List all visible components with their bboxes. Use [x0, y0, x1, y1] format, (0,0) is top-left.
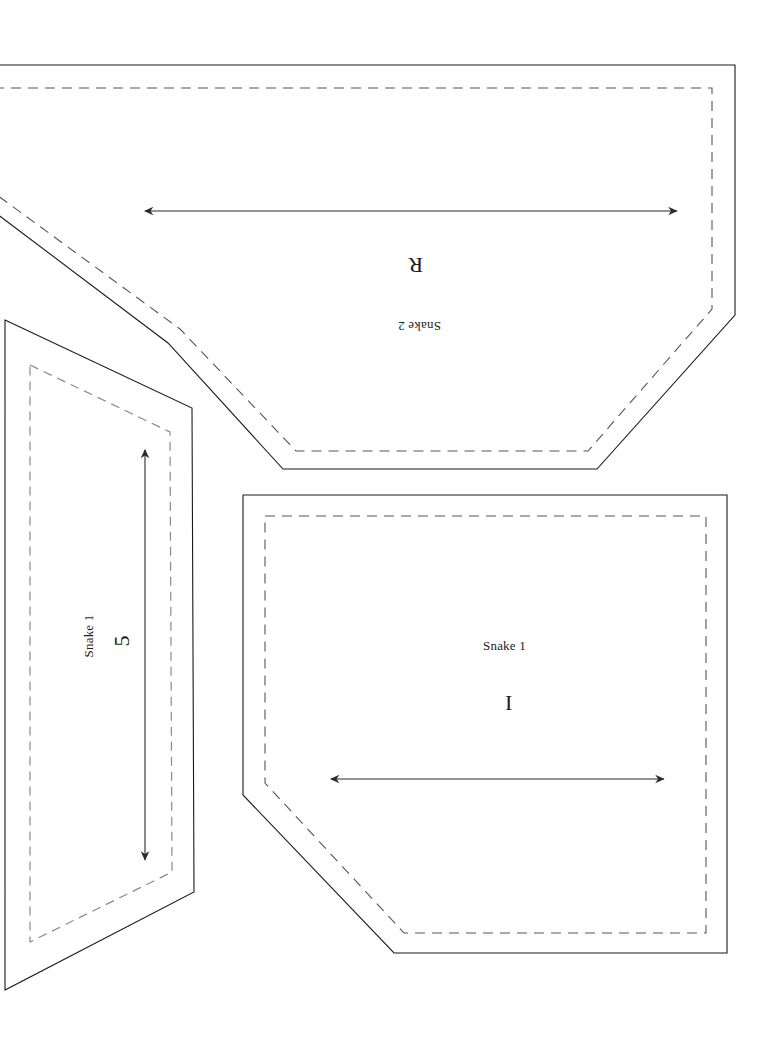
template-canvas: Snake 2 R Snake 1 I Snake 1 5: [0, 0, 770, 1037]
panel-snake-1-left[interactable]: [5, 320, 194, 990]
snake-1-left-name-label: Snake 1: [81, 615, 97, 658]
snake-2-marker-label: R: [408, 252, 423, 278]
net-diagram: [0, 0, 770, 1037]
panel-snake-1-right-fold-line: [265, 516, 706, 933]
snake-1-right-marker-label: I: [505, 690, 513, 716]
snake-1-left-marker-label: 5: [109, 635, 135, 646]
panel-snake-1-right-cut-line: [243, 495, 727, 953]
snake-1-right-name-label: Snake 1: [483, 638, 526, 654]
panel-snake-1-left-fill-area: [30, 365, 172, 942]
panel-snake-2[interactable]: [0, 65, 735, 469]
panel-snake-1-right[interactable]: [243, 495, 727, 953]
panel-snake-2-fold-line: [0, 88, 712, 451]
snake-2-name-label: Snake 2: [398, 318, 441, 334]
panel-snake-1-left-cut-line: [5, 320, 194, 990]
